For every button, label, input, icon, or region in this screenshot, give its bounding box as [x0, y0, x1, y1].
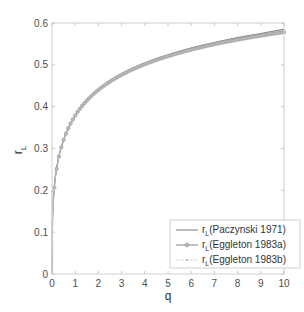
y-tick-label: 0.1: [34, 227, 48, 238]
x-tick-label: 5: [165, 278, 171, 289]
legend: rL(Paczynski 1971)rL(Eggleton 1983a)rL(E…: [170, 220, 300, 268]
x-tick-label: 4: [142, 278, 148, 289]
x-tick-label: 9: [258, 278, 264, 289]
x-tick-label: 1: [72, 278, 78, 289]
x-tick-label: 0: [49, 278, 55, 289]
y-tick-label: 0.2: [34, 185, 48, 196]
x-tick-label: 3: [119, 278, 125, 289]
x-axis-label: q: [165, 289, 172, 303]
chart: 012345678910 00.10.20.30.40.50.6 q rL rL…: [0, 0, 304, 312]
y-tick-label: 0.5: [34, 59, 48, 70]
x-tick-label: 10: [278, 278, 290, 289]
x-tick-label: 8: [235, 278, 241, 289]
y-tick-label: 0.4: [34, 101, 48, 112]
x-tick-label: 6: [188, 278, 194, 289]
x-tick-label: 2: [96, 278, 102, 289]
y-tick-label: 0: [42, 269, 48, 280]
y-tick-label: 0.6: [34, 18, 48, 29]
x-tick-label: 7: [212, 278, 218, 289]
y-axis-label-sub: L: [19, 145, 28, 150]
y-tick-label: 0.3: [34, 143, 48, 154]
legend-marker: [185, 243, 189, 247]
legend-marker: [186, 259, 188, 261]
